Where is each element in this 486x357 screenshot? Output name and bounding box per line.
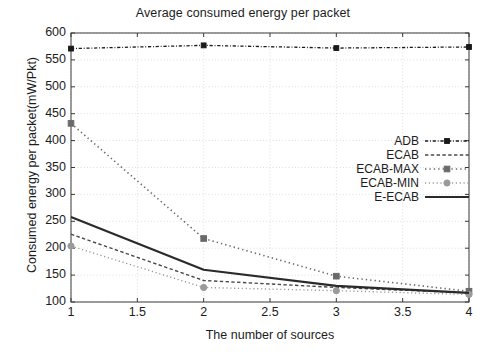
x-tick-label: 3.5 xyxy=(383,306,423,319)
chart-figure: Average consumed energy per packet Consu… xyxy=(0,0,486,357)
x-tick-label: 3 xyxy=(316,306,356,319)
legend-item: ADB xyxy=(330,134,470,148)
x-tick-label: 4 xyxy=(449,306,486,319)
x-tick-label: 2 xyxy=(184,306,224,319)
x-tick-label: 1.5 xyxy=(117,306,157,319)
data-point-marker xyxy=(444,166,450,172)
legend-label: ECAB-MAX xyxy=(356,162,424,176)
legend-label: ECAB-MIN xyxy=(360,176,424,190)
legend-item: ECAB xyxy=(330,148,470,162)
legend-line-sample xyxy=(424,177,470,189)
legend-item: ECAB-MIN xyxy=(330,176,470,190)
legend-label: ADB xyxy=(394,134,424,148)
x-tick-label: 2.5 xyxy=(250,306,290,319)
x-tick-label: 1 xyxy=(51,306,91,319)
data-point-marker xyxy=(445,139,450,144)
legend-line-sample xyxy=(424,191,470,203)
legend-item: ECAB-MAX xyxy=(330,162,470,176)
data-point-marker xyxy=(444,180,450,186)
legend-line-sample xyxy=(424,135,470,147)
legend-item: E-ECAB xyxy=(330,190,470,204)
chart-legend: ADBECABECAB-MAXECAB-MINE-ECAB xyxy=(330,134,470,204)
legend-label: E-ECAB xyxy=(374,190,424,204)
legend-line-sample xyxy=(424,149,470,161)
legend-label: ECAB xyxy=(386,148,424,162)
legend-line-sample xyxy=(424,163,470,175)
